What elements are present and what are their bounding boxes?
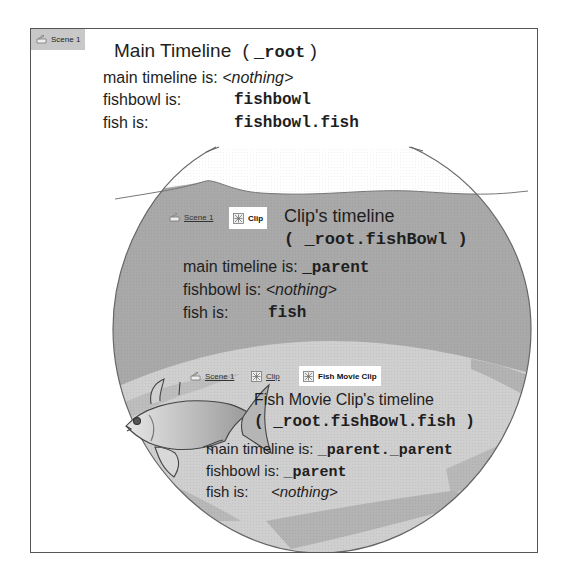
root-title-text: Main Timeline: [114, 40, 231, 61]
line-label: fish is:: [183, 304, 228, 321]
root-line-fishbowl: fishbowl is:: [103, 91, 181, 109]
line-label: main timeline is:: [103, 69, 218, 86]
fish-line-main: main timeline is: _parent._parent: [206, 440, 453, 459]
line-value: fishbowl: [234, 91, 311, 109]
line-label: fishbowl is:: [206, 462, 279, 479]
fish-title: Fish Movie Clip's timeline: [254, 391, 434, 409]
breadcrumb-label: Fish Movie Clip: [318, 372, 377, 381]
line-value: <nothing>: [266, 281, 337, 298]
fish-path: ( _root.fishBowl.fish ): [254, 413, 475, 431]
movie-clip-icon: [303, 371, 314, 382]
root-title: Main Timeline ( _root ): [114, 40, 317, 62]
movie-clip-icon: [251, 371, 262, 382]
line-value: <nothing>: [222, 69, 293, 86]
breadcrumb-label: Clip: [266, 372, 280, 381]
scene-icon: [169, 212, 180, 223]
line-label: fishbowl is:: [183, 281, 261, 298]
clip-line-main: main timeline is: _parent: [183, 258, 369, 277]
root-line-main: main timeline is: <nothing>: [103, 69, 293, 87]
clip-path: ( _root.fishBowl ): [284, 230, 468, 249]
line-value: fish: [268, 304, 306, 322]
breadcrumb-clip-scene[interactable]: Scene 1: [165, 208, 217, 226]
breadcrumb-root: Scene 1: [31, 29, 85, 50]
line-label: main timeline is:: [183, 258, 298, 275]
clip-line-fishbowl: fishbowl is: <nothing>: [183, 281, 337, 299]
breadcrumb-label: Scene 1: [184, 213, 213, 222]
line-value: fishbowl.fish: [234, 114, 359, 132]
line-label: fishbowl is:: [103, 91, 181, 108]
breadcrumb-fish-clip[interactable]: Clip: [247, 367, 284, 385]
clip-title: Clip's timeline: [284, 206, 394, 227]
line-value: _parent._parent: [318, 442, 453, 459]
breadcrumb-fish-scene[interactable]: Scene 1: [186, 367, 238, 385]
scene-icon: [36, 34, 47, 45]
line-value: <nothing>: [271, 483, 338, 500]
scene-icon: [190, 371, 201, 382]
root-line-fish: fish is:: [103, 114, 148, 132]
paren-close: ): [310, 40, 316, 61]
breadcrumb-fish-active[interactable]: Fish Movie Clip: [299, 366, 381, 386]
movie-clip-icon: [233, 213, 244, 224]
breadcrumb-label: Scene 1: [205, 372, 234, 381]
fish-line-fishbowl: fishbowl is: _parent: [206, 462, 347, 481]
root-path: _root: [254, 43, 305, 62]
breadcrumb-scene-1[interactable]: Scene 1: [51, 35, 80, 44]
diagram-frame: Scene 1 Main Timeline ( _root ) main tim…: [30, 28, 538, 553]
line-label: fish is:: [206, 483, 249, 500]
breadcrumb-label: Clip: [248, 214, 263, 223]
line-value: _parent: [284, 464, 347, 481]
paren-open: (: [243, 40, 249, 61]
line-value: _parent: [302, 259, 369, 277]
clip-line-fish: fish is:: [183, 304, 228, 322]
line-label: fish is:: [103, 114, 148, 131]
breadcrumb-clip-active[interactable]: Clip: [229, 207, 267, 229]
line-label: main timeline is:: [206, 440, 314, 457]
fish-line-fish: fish is:: [206, 483, 249, 500]
